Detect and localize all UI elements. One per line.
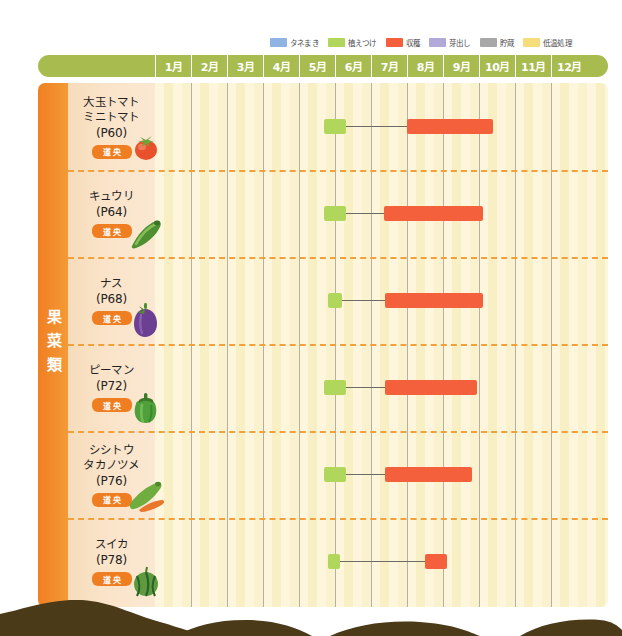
bar-harvest[interactable] xyxy=(385,293,482,308)
legend-item-storage: 貯蔵 xyxy=(480,37,514,48)
legend-item-sprouting: 芽出し xyxy=(429,37,471,48)
bar-planting[interactable] xyxy=(324,206,346,221)
region-badge: 道央 xyxy=(92,398,132,412)
row-title-line: 大玉トマト xyxy=(83,95,140,110)
legend-swatch-sprouting xyxy=(429,38,446,47)
month-cell-4: 4月 xyxy=(263,55,299,77)
bar-harvest[interactable] xyxy=(407,119,493,134)
chart-body: 果菜類 大玉トマトミニトマト(P60)道央キュウリ(P64)道央ナス(P68)道… xyxy=(38,83,608,607)
legend-item-cold-treatment: 低温処理 xyxy=(523,37,572,48)
region-badge: 道央 xyxy=(92,145,132,159)
row-page-reference: (P64) xyxy=(96,204,127,220)
legend-label-cold-treatment: 低温処理 xyxy=(543,37,572,48)
row-title-line: シシトウ xyxy=(89,443,134,458)
region-badge: 道央 xyxy=(92,572,132,586)
legend-label-sprouting: 芽出し xyxy=(449,37,471,48)
legend-swatch-sowing xyxy=(270,38,287,47)
bar-connector xyxy=(340,561,425,562)
legend-item-harvest: 収穫 xyxy=(386,37,420,48)
bar-planting[interactable] xyxy=(324,467,346,482)
bar-harvest[interactable] xyxy=(425,554,447,569)
row-page-reference: (P72) xyxy=(96,378,127,394)
month-header: 1月2月3月4月5月6月7月8月9月10月11月12月 xyxy=(38,55,608,77)
legend-swatch-storage xyxy=(480,38,497,47)
category-bar: 果菜類 xyxy=(38,83,68,607)
legend-label-sowing: タネまき xyxy=(290,37,319,48)
bar-connector xyxy=(346,126,407,127)
row-page-reference: (P68) xyxy=(96,291,127,307)
bar-harvest[interactable] xyxy=(385,467,471,482)
month-cell-1: 1月 xyxy=(155,55,191,77)
row-page-reference: (P76) xyxy=(96,473,127,489)
month-cell-11: 11月 xyxy=(515,55,551,77)
row-label-eggplant[interactable]: ナス(P68)道央 xyxy=(68,257,155,344)
row-page-reference: (P78) xyxy=(96,552,127,568)
ground-decoration xyxy=(0,600,622,636)
legend-label-harvest: 収穫 xyxy=(406,37,420,48)
bar-planting[interactable] xyxy=(324,119,346,134)
row-title-line: キュウリ xyxy=(89,189,134,204)
bar-harvest[interactable] xyxy=(384,206,483,221)
bar-connector xyxy=(346,213,384,214)
legend-swatch-planting xyxy=(328,38,345,47)
row-label-watermelon[interactable]: スイカ(P78)道央 xyxy=(68,518,155,605)
row-title-line: タカノツメ xyxy=(83,458,140,473)
bar-planting[interactable] xyxy=(328,293,342,308)
month-cell-5: 5月 xyxy=(299,55,335,77)
month-cell-10: 10月 xyxy=(479,55,515,77)
bar-planting[interactable] xyxy=(324,380,346,395)
legend-swatch-cold-treatment xyxy=(523,38,540,47)
legend: タネまき植えつけ収穫芽出し貯蔵低温処理 xyxy=(270,34,572,50)
row-title-line: ピーマン xyxy=(89,363,134,378)
row-label-shishito[interactable]: シシトウタカノツメ(P76)道央 xyxy=(68,431,155,518)
bar-harvest[interactable] xyxy=(385,380,477,395)
month-cell-6: 6月 xyxy=(335,55,371,77)
bar-connector xyxy=(342,300,385,301)
bar-connector xyxy=(346,387,386,388)
month-cell-12: 12月 xyxy=(551,55,587,77)
bar-planting[interactable] xyxy=(328,554,341,569)
category-label: 果菜類 xyxy=(46,309,61,381)
row-title-line: ミニトマト xyxy=(83,110,140,125)
row-title-line: ナス xyxy=(100,276,123,291)
month-header-spacer xyxy=(38,55,155,77)
row-page-reference: (P60) xyxy=(96,125,127,141)
month-cell-7: 7月 xyxy=(371,55,407,77)
calendar-page: タネまき植えつけ収穫芽出し貯蔵低温処理 1月2月3月4月5月6月7月8月9月10… xyxy=(0,0,622,636)
region-badge: 道央 xyxy=(92,311,132,325)
row-title-line: スイカ xyxy=(95,537,129,552)
region-badge: 道央 xyxy=(92,224,132,238)
bar-connector xyxy=(346,474,386,475)
region-badge: 道央 xyxy=(92,493,132,507)
legend-label-storage: 貯蔵 xyxy=(500,37,514,48)
row-label-bell-pepper[interactable]: ピーマン(P72)道央 xyxy=(68,344,155,431)
month-cell-9: 9月 xyxy=(443,55,479,77)
legend-label-planting: 植えつけ xyxy=(348,37,377,48)
legend-item-sowing: タネまき xyxy=(270,37,319,48)
legend-item-planting: 植えつけ xyxy=(328,37,377,48)
row-label-cucumber[interactable]: キュウリ(P64)道央 xyxy=(68,170,155,257)
month-cell-2: 2月 xyxy=(191,55,227,77)
legend-swatch-harvest xyxy=(386,38,403,47)
row-label-tomato[interactable]: 大玉トマトミニトマト(P60)道央 xyxy=(68,83,155,170)
month-cell-8: 8月 xyxy=(407,55,443,77)
month-cell-3: 3月 xyxy=(227,55,263,77)
